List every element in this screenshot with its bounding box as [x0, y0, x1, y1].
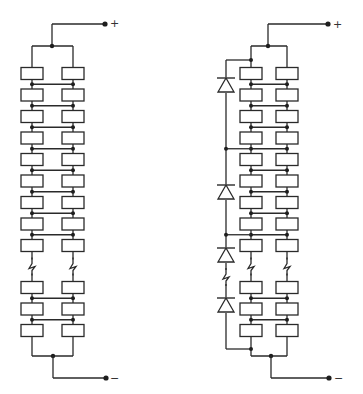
- battery-cell: [240, 175, 262, 187]
- diode-triangle: [218, 298, 234, 312]
- battery-cell: [21, 154, 43, 166]
- battery-string-diagram: + − + −: [0, 0, 363, 394]
- battery-cell: [21, 89, 43, 101]
- junction-dot: [285, 168, 289, 172]
- positive-terminal: [325, 21, 330, 26]
- battery-cell: [21, 175, 43, 187]
- junction-dot: [285, 211, 289, 215]
- battery-cell: [276, 175, 298, 187]
- junction-dot: [30, 104, 34, 108]
- junction-dot: [30, 211, 34, 215]
- battery-cell: [276, 68, 298, 80]
- battery-cell: [21, 325, 43, 337]
- battery-cell: [240, 197, 262, 209]
- junction-dot: [71, 318, 75, 322]
- junction-dot: [50, 44, 54, 48]
- battery-cell: [240, 240, 262, 252]
- battery-cell: [240, 89, 262, 101]
- battery-cell: [276, 303, 298, 315]
- junction-dot: [285, 125, 289, 129]
- battery-cell: [240, 325, 262, 337]
- battery-cell: [276, 132, 298, 144]
- battery-cell: [240, 218, 262, 230]
- battery-cell: [62, 111, 84, 123]
- junction-dot: [30, 318, 34, 322]
- battery-cell: [240, 111, 262, 123]
- junction-dot: [71, 82, 75, 86]
- circuit-with-bypass-diodes: [217, 21, 332, 380]
- junction-dot: [249, 318, 253, 322]
- junction-dot: [71, 104, 75, 108]
- negative-terminal: [103, 375, 108, 380]
- battery-cell: [62, 154, 84, 166]
- junction-dot: [285, 296, 289, 300]
- battery-cell: [276, 325, 298, 337]
- junction-dot: [30, 190, 34, 194]
- bypass-diode-icon: [217, 185, 235, 199]
- battery-cell: [21, 303, 43, 315]
- bypass-diode-icon: [217, 78, 235, 92]
- junction-dot: [30, 125, 34, 129]
- junction-dot: [249, 82, 253, 86]
- circuit-without-diodes: [21, 21, 109, 380]
- junction-dot: [71, 125, 75, 129]
- battery-cell: [240, 303, 262, 315]
- bypass-diode-icon: [217, 298, 235, 312]
- junction-dot: [71, 190, 75, 194]
- battery-cell: [240, 68, 262, 80]
- battery-cell: [21, 282, 43, 294]
- battery-cell: [240, 282, 262, 294]
- junction-dot: [285, 190, 289, 194]
- right-negative-terminal-label: −: [334, 372, 343, 385]
- junction-dot: [224, 147, 228, 151]
- junction-dot: [249, 125, 253, 129]
- bypass-diode-icon: [217, 248, 235, 262]
- junction-dot: [30, 147, 34, 151]
- battery-cell: [21, 132, 43, 144]
- battery-cell: [21, 240, 43, 252]
- battery-cell: [62, 197, 84, 209]
- junction-dot: [30, 82, 34, 86]
- junction-dot: [285, 318, 289, 322]
- battery-cell: [62, 218, 84, 230]
- left-positive-terminal-label: +: [110, 17, 119, 30]
- junction-dot: [224, 233, 228, 237]
- junction-dot: [249, 58, 253, 62]
- battery-cell: [276, 282, 298, 294]
- junction-dot: [71, 147, 75, 151]
- battery-cell: [21, 218, 43, 230]
- left-negative-terminal-label: −: [110, 372, 119, 385]
- battery-cell: [62, 282, 84, 294]
- junction-dot: [249, 104, 253, 108]
- junction-dot: [30, 233, 34, 237]
- battery-cell: [62, 68, 84, 80]
- junction-dot: [285, 82, 289, 86]
- battery-cell: [276, 89, 298, 101]
- battery-cell: [276, 240, 298, 252]
- battery-cell: [62, 89, 84, 101]
- diode-triangle: [218, 185, 234, 199]
- junction-dot: [285, 233, 289, 237]
- battery-cell: [21, 68, 43, 80]
- battery-cell: [62, 175, 84, 187]
- battery-cell: [62, 132, 84, 144]
- battery-cell: [276, 154, 298, 166]
- diode-triangle: [218, 78, 234, 92]
- battery-cell: [21, 197, 43, 209]
- junction-dot: [71, 296, 75, 300]
- junction-dot: [71, 168, 75, 172]
- right-positive-terminal-label: +: [333, 18, 342, 31]
- battery-cell: [21, 111, 43, 123]
- junction-dot: [266, 44, 270, 48]
- positive-terminal: [102, 21, 107, 26]
- junction-dot: [249, 296, 253, 300]
- junction-dot: [71, 233, 75, 237]
- junction-dot: [30, 168, 34, 172]
- battery-cell: [62, 240, 84, 252]
- junction-dot: [249, 347, 253, 351]
- battery-cell: [240, 154, 262, 166]
- junction-dot: [249, 190, 253, 194]
- battery-cell: [276, 111, 298, 123]
- battery-cell: [276, 218, 298, 230]
- negative-terminal: [326, 375, 331, 380]
